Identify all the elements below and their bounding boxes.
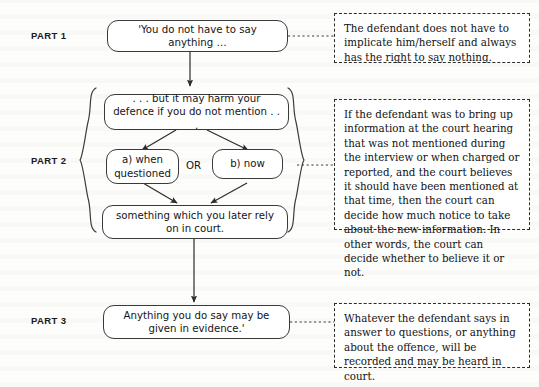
brace-left-part2 [80, 88, 96, 232]
node-rely-in-court[interactable]: something which you later rely on in cou… [102, 205, 288, 239]
arrow-mention-to-branch-b [207, 130, 248, 150]
explanation-panel-part3: Whatever the defendant says in answer to… [334, 303, 530, 368]
node-branch-a-when-questioned[interactable]: a) when questioned [106, 149, 179, 184]
or-connector-label: OR [186, 160, 201, 171]
diagram-canvas: PART 1 PART 2 PART 3 'You do not have to… [0, 0, 539, 387]
node-caution-part2-mention[interactable]: . . . but it may harm your defence if yo… [104, 94, 289, 130]
part-label-3: PART 3 [31, 315, 66, 326]
part-label-2: PART 2 [31, 155, 66, 166]
explanation-panel-part2: If the defendant was to bring up informa… [334, 99, 530, 230]
node-caution-part1[interactable]: 'You do not have to say anything … [107, 20, 288, 52]
brace-right-part2 [288, 88, 304, 232]
part-label-1: PART 1 [31, 30, 66, 41]
node-branch-b-now[interactable]: b) now [212, 149, 283, 179]
explanation-panel-part1: The defendant does not have to implicate… [334, 13, 530, 63]
arrow-mention-to-branch-a [142, 130, 176, 150]
node-caution-part3-evidence[interactable]: Anything you do say may be given in evid… [103, 305, 290, 339]
arrow-branch-b-to-rely [211, 183, 247, 203]
arrow-branch-a-to-rely [143, 183, 177, 203]
